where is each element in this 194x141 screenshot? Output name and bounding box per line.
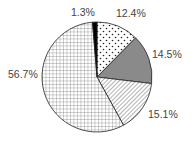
slice-label-1-3: 1.3% — [71, 6, 95, 18]
slice-label-12-4: 12.4% — [116, 7, 146, 19]
pie-slices — [42, 22, 152, 132]
slice-label-14-5: 14.5% — [152, 48, 182, 60]
pie-chart: 1.3% 12.4% 14.5% 15.1% 56.7% — [0, 0, 194, 141]
slice-label-15-1: 15.1% — [148, 108, 178, 120]
slice-label-56-7: 56.7% — [8, 68, 38, 80]
